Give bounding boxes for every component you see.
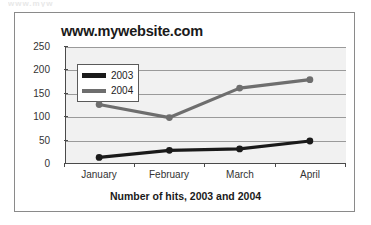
gridline-50 [65,141,346,142]
gridline-100 [65,117,346,118]
y-axis-line [65,47,66,164]
x-tickmark-4 [345,163,346,167]
y-tick-200: 200 [33,64,50,75]
y-tick-150: 150 [33,87,50,98]
chart-title: www.mywebsite.com [61,23,203,39]
y-tick-100: 100 [33,111,50,122]
y-tick-0: 0 [44,158,50,169]
legend-swatch-2004 [82,89,106,93]
y-axis-tick-labels: 250 200 150 100 50 0 [14,46,50,163]
legend-label-2003: 2003 [111,71,133,81]
legend-swatch-2003 [82,73,106,78]
legend-entry-2004: 2004 [82,83,134,98]
y-tick-250: 250 [33,41,50,52]
legend-label-2004: 2004 [111,86,133,96]
y-tick-50: 50 [39,134,50,145]
x-tick-february: February [149,169,189,180]
y-tickmark-150 [64,93,68,94]
gridline-250 [65,47,346,48]
x-tickmark-0 [64,163,65,167]
y-tickmark-200 [64,69,68,70]
x-tickmark-3 [275,163,276,167]
x-tick-april: April [300,169,320,180]
y-tickmark-50 [64,140,68,141]
x-tick-march: March [226,169,254,180]
x-axis-caption: Number of hits, 2003 and 2004 [0,190,371,202]
x-tickmark-2 [204,163,205,167]
chart-frame: www.mywebsite.com 2003 2004 [14,12,355,212]
x-tick-january: January [81,169,117,180]
y-tickmark-100 [64,116,68,117]
legend-entry-2003: 2003 [82,68,134,83]
y-tickmark-250 [64,46,68,47]
chart-legend: 2003 2004 [77,64,139,102]
x-tickmark-1 [134,163,135,167]
cut-off-top-text: www.myw [8,0,78,7]
x-axis-line [65,163,346,164]
